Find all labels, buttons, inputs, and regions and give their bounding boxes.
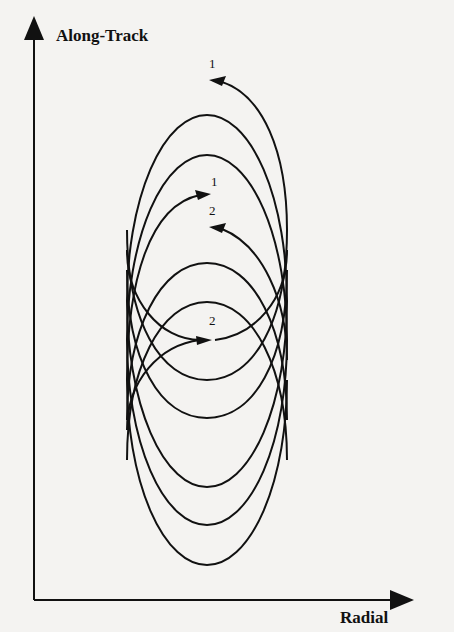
marker-label-start-1: 1 bbox=[209, 56, 216, 72]
arrowhead-end-1 bbox=[195, 190, 211, 200]
arrowhead-end-2 bbox=[196, 336, 212, 345]
along-track-axis-label: Along-Track bbox=[56, 26, 148, 46]
radial-axis-label: Radial bbox=[340, 608, 388, 628]
arrowhead-start-2 bbox=[209, 223, 226, 233]
marker-label-end-2: 2 bbox=[209, 313, 216, 329]
relative-motion-ellipses bbox=[127, 82, 287, 565]
trajectory-diagram bbox=[0, 0, 454, 632]
arrowhead-start-1 bbox=[209, 76, 226, 86]
marker-label-end-1: 1 bbox=[211, 174, 218, 190]
marker-label-start-2: 2 bbox=[209, 203, 216, 219]
